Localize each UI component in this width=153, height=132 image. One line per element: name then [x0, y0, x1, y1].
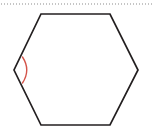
figure-canvas — [0, 0, 153, 132]
figure-background — [0, 0, 153, 132]
geometry-figure-svg — [0, 0, 153, 132]
